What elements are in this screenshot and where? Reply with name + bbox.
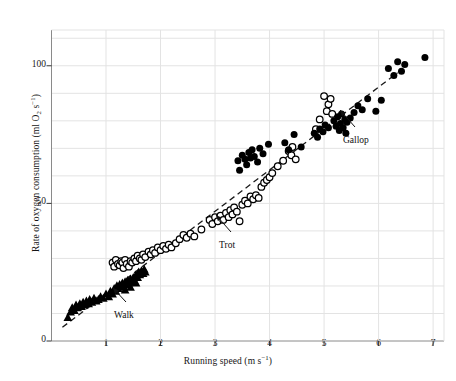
data-point-open-circle [198, 226, 205, 233]
data-point-filled-circle [351, 109, 358, 116]
data-point-filled-circle [234, 157, 241, 164]
plot-canvas [0, 0, 456, 381]
data-point-open-circle [191, 233, 198, 240]
annotation-label-walk: Walk [114, 310, 134, 320]
data-point-filled-circle [421, 54, 428, 61]
annotation-label-trot: Trot [219, 240, 235, 250]
data-point-filled-circle [372, 108, 379, 115]
data-point-filled-circle [314, 134, 321, 141]
data-point-filled-circle [325, 124, 332, 131]
data-point-open-circle [269, 170, 276, 177]
data-point-open-circle [255, 195, 262, 202]
data-point-open-circle [234, 208, 241, 215]
data-point-filled-circle [359, 106, 366, 113]
data-point-open-circle [236, 218, 243, 225]
data-point-open-circle [292, 156, 299, 163]
figure-root: Rate of oxygen consumption (ml O2 s−1) R… [0, 0, 456, 381]
data-point-filled-circle [385, 65, 392, 72]
data-point-filled-circle [364, 95, 371, 102]
data-point-filled-circle [398, 68, 405, 75]
data-point-filled-circle [236, 167, 243, 174]
data-point-filled-circle [298, 143, 305, 150]
data-point-filled-circle [390, 72, 397, 79]
data-point-filled-circle [291, 131, 298, 138]
data-point-open-circle [280, 157, 287, 164]
data-point-open-circle [274, 163, 281, 170]
data-point-filled-circle [401, 61, 408, 68]
data-point-open-circle [316, 116, 323, 123]
data-point-filled-circle [265, 141, 272, 148]
data-point-filled-circle [281, 139, 288, 146]
series-walk [63, 265, 149, 321]
data-point-filled-circle [285, 146, 292, 153]
data-point-filled-circle [249, 146, 256, 153]
data-point-filled-circle [243, 161, 250, 168]
data-point-open-circle [321, 93, 328, 100]
data-point-open-circle [327, 96, 334, 103]
data-point-filled-circle [260, 150, 267, 157]
annotation-label-gallop: Gallop [343, 135, 369, 145]
data-point-filled-circle [378, 97, 385, 104]
data-point-filled-circle [394, 58, 401, 65]
data-point-filled-circle [254, 159, 261, 166]
